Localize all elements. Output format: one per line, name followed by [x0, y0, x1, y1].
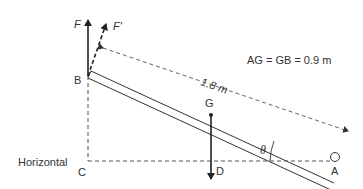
pivot-A	[331, 153, 340, 162]
label-D: D	[216, 165, 224, 177]
label-A: A	[331, 165, 339, 177]
label-B: B	[74, 74, 81, 86]
label-theta: θ	[260, 143, 266, 157]
label-length: 1.8 m	[199, 76, 229, 96]
force-F-prime-arrow	[88, 24, 106, 76]
label-F: F	[74, 18, 82, 30]
label-F-prime: F'	[113, 20, 123, 32]
label-C: C	[78, 166, 86, 178]
label-G: G	[205, 97, 214, 109]
label-horizontal: Horizontal	[18, 156, 68, 168]
beam-bottom-edge	[88, 78, 331, 189]
theta-arc	[270, 141, 274, 161]
beam-diagram: F F' B G Horizontal C D A θ AG = GB = 0.…	[0, 0, 363, 189]
label-equation: AG = GB = 0.9 m	[247, 54, 331, 66]
